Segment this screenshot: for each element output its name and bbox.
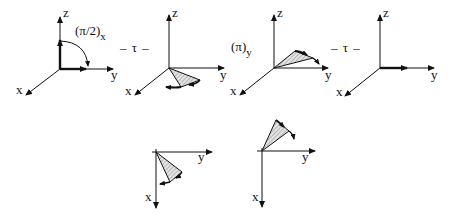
panel-3 <box>240 15 328 95</box>
delay-tau-label: – τ – <box>331 41 361 54</box>
x-axis-label: x <box>145 190 152 203</box>
y-axis-label: y <box>220 68 227 81</box>
panel-2 <box>135 15 224 95</box>
pulse-angle: (π) <box>231 39 246 54</box>
dephase-arrow-icon <box>160 182 170 184</box>
y-axis-label: y <box>111 68 118 81</box>
refocusing-cone-top-view <box>262 120 289 151</box>
pulse-axis: x <box>100 30 106 42</box>
x-axis <box>240 68 274 95</box>
x-axis <box>135 68 169 95</box>
pulse-label-pi-y: (π)y <box>231 40 252 53</box>
diagram-graphics <box>0 0 454 216</box>
z-axis-label: z <box>383 6 389 19</box>
pulse-axis: y <box>246 46 252 58</box>
x-axis <box>26 69 60 95</box>
y-axis-label: y <box>302 150 309 163</box>
z-axis-label: z <box>172 6 178 19</box>
dephase-arrow-icon <box>166 87 181 88</box>
refocus-arrow-icon <box>289 131 294 139</box>
spin-echo-diagram: z y x z y x z y x z y x y x y x (π/2)x –… <box>0 0 454 216</box>
x-axis-label: x <box>125 84 132 97</box>
y-axis-label: y <box>431 68 438 81</box>
refocusing-cone <box>274 51 313 68</box>
z-axis-label: z <box>277 6 283 19</box>
x-axis-label: x <box>252 190 259 203</box>
x-axis-label: x <box>16 83 23 96</box>
pulse-angle: (π/2) <box>75 23 100 38</box>
panel-4 <box>345 15 434 96</box>
x-axis <box>345 68 380 96</box>
x-axis-label: x <box>230 84 237 97</box>
y-axis-label: y <box>325 68 332 81</box>
refocus-arrow-icon <box>313 58 319 64</box>
pulse-label-pi-half-x: (π/2)x <box>75 24 106 37</box>
y-axis-label: y <box>198 150 205 163</box>
z-axis-label: z <box>63 6 69 19</box>
delay-tau-label: – τ – <box>120 41 150 54</box>
x-axis-label: x <box>336 85 343 98</box>
rotation-arc-icon <box>60 41 88 66</box>
